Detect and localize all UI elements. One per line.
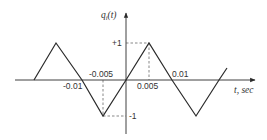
y-tick-label-minus-1: -1 [129,111,137,121]
x-axis-label: t, sec [234,85,254,95]
x-tick-label-neg-0.005: -0.005 [89,69,113,79]
x-tick-label-0.01: 0.01 [172,69,189,79]
y-tick-label-plus-1: +1 [112,38,122,48]
x-tick-label-neg-0.01: -0.01 [63,81,83,91]
waveform-diagram: qi(t) t, sec -0.01 -0.005 0.005 0.01 +1 … [0,0,267,140]
x-tick-label-0.005: 0.005 [137,81,159,91]
y-axis-label: qi(t) [101,10,117,21]
triangular-waveform [34,43,227,116]
